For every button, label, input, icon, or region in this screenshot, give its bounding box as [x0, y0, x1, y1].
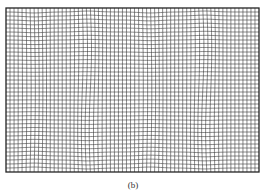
figure-caption: (b) [0, 180, 266, 190]
mesh-lines [6, 8, 259, 172]
deformed-mesh-grid [0, 0, 266, 180]
